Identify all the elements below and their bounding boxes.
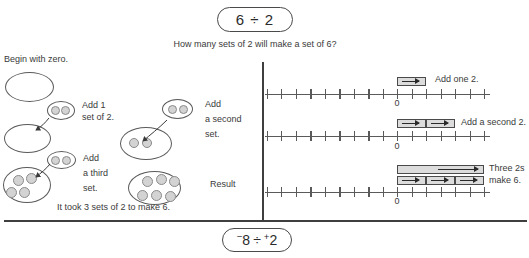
result-label: Result xyxy=(210,179,236,190)
divisor: 2 xyxy=(269,232,277,248)
jump-bar xyxy=(397,77,426,86)
horizontal-divider xyxy=(4,220,527,222)
positive-sign: + xyxy=(264,231,270,242)
counter-dot xyxy=(156,174,167,185)
set-of-two-oval-1 xyxy=(47,101,75,120)
add-second-set-line2: a second xyxy=(205,112,242,127)
division-sign: ÷ xyxy=(253,232,261,248)
counter-dot xyxy=(26,173,37,184)
add-third-set-line2: a third xyxy=(83,166,108,181)
numberline-3-label-line1: Three 2s xyxy=(489,163,525,174)
division-title-text: 6 ÷ 2 xyxy=(236,11,274,28)
begin-with-zero-label: Begin with zero. xyxy=(4,54,68,65)
division-title-pill: 6 ÷ 2 xyxy=(217,7,293,32)
jump-bar xyxy=(397,176,426,185)
numberline-3-label-line2: make 6. xyxy=(489,175,521,186)
counter-dot xyxy=(165,191,176,202)
add-third-set-label: Add a third set. xyxy=(83,151,108,196)
counter-dot xyxy=(51,156,60,165)
numberline-1-axis xyxy=(265,94,490,95)
numberline-2-label: Add a second 2. xyxy=(461,117,526,128)
jump-bar xyxy=(426,176,455,185)
counter-dot xyxy=(137,190,148,201)
result-six-dots-oval xyxy=(128,171,181,205)
counter-dot xyxy=(129,138,139,148)
numberline-2-zero: 0 xyxy=(392,141,402,152)
total-jump-bar xyxy=(397,165,484,174)
add-second-set-line3: set. xyxy=(205,127,242,142)
right-arrow-icon xyxy=(460,180,477,181)
add-first-set-line2: set of 2. xyxy=(82,111,114,123)
counter-dot xyxy=(6,187,17,198)
counter-dot xyxy=(51,106,60,115)
right-arrow-icon xyxy=(431,180,448,181)
counter-dot xyxy=(62,156,71,165)
right-arrow-icon xyxy=(402,180,419,181)
right-arrow-icon xyxy=(402,81,419,82)
set-of-two-oval-3 xyxy=(47,151,76,169)
jump-bar xyxy=(455,176,484,185)
numberline-3-zero: 0 xyxy=(392,196,402,207)
numberline-1-label: Add one 2. xyxy=(435,74,479,85)
counter-dot xyxy=(168,105,177,114)
counter-dot xyxy=(142,138,152,148)
add-first-set-label: Add 1 set of 2. xyxy=(82,99,114,123)
counter-dot xyxy=(151,190,162,201)
vertical-divider xyxy=(262,62,264,221)
counter-dot xyxy=(142,176,153,187)
set-of-two-oval-2 xyxy=(162,99,193,119)
four-dots-oval xyxy=(3,167,51,203)
jump-bar xyxy=(426,119,455,128)
negative-sign: − xyxy=(237,231,243,242)
add-first-set-line1: Add 1 xyxy=(82,99,114,111)
two-dots-oval xyxy=(120,127,172,160)
numberline-1-zero: 0 xyxy=(392,98,402,109)
right-arrow-icon xyxy=(438,169,478,170)
question-text: How many sets of 2 will make a set of 6? xyxy=(130,39,380,50)
next-problem-pill: −8÷+2 xyxy=(222,228,292,252)
counter-dot xyxy=(61,106,70,115)
right-arrow-icon xyxy=(431,123,448,124)
empty-set-oval-1 xyxy=(5,72,54,102)
counter-dot xyxy=(19,187,30,198)
numberline-2-axis xyxy=(265,136,490,137)
counter-dot xyxy=(169,176,180,187)
counter-dot xyxy=(179,105,188,114)
empty-set-oval-2 xyxy=(4,124,51,153)
worksheet-figure: 6 ÷ 2 How many sets of 2 will make a set… xyxy=(0,0,529,258)
dividend: 8 xyxy=(242,232,250,248)
add-second-set-label: Add a second set. xyxy=(205,97,242,142)
add-third-set-line3: set. xyxy=(83,181,108,196)
jump-bar xyxy=(397,119,426,128)
right-arrow-icon xyxy=(402,123,419,124)
add-second-set-line1: Add xyxy=(205,97,242,112)
numberline-3-axis xyxy=(265,192,490,193)
counter-dot xyxy=(13,175,24,186)
add-third-set-line1: Add xyxy=(83,151,108,166)
